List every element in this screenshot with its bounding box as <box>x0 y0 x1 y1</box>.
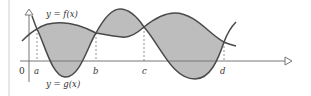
point-b-label: b <box>93 66 98 76</box>
area-between-curves-diagram: y = f(x) y = g(x) 0 a b c d <box>0 0 311 96</box>
point-a-label: a <box>34 66 39 76</box>
curve-g-label: y = g(x) <box>45 79 80 89</box>
curve-f-label: y = f(x) <box>45 9 78 19</box>
y-axis-arrow-icon <box>25 9 33 15</box>
x-axis-arrow-icon <box>285 57 292 65</box>
point-c-label: c <box>142 66 147 76</box>
point-d-label: d <box>220 66 226 76</box>
origin-label: 0 <box>19 66 25 76</box>
